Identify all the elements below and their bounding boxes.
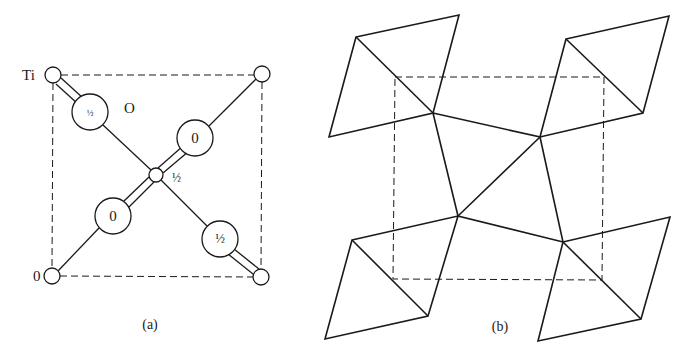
- rutile-structure-figure: ½ 0 0 ½ Ti O 0 ½ (a): [0, 0, 692, 360]
- ti-corner-top-right: [254, 66, 270, 82]
- origin-label: 0: [33, 268, 41, 284]
- ti-label: Ti: [22, 67, 35, 83]
- octahedron-top-right: [540, 16, 669, 137]
- octahedron-bottom-right: [538, 217, 670, 341]
- ti-corner-bottom-right: [253, 269, 269, 285]
- oxygen-upper-right-height: 0: [191, 130, 199, 146]
- unit-cell-outline-b: [393, 77, 604, 280]
- ti-center: [149, 168, 163, 182]
- panel-a: ½ 0 0 ½ Ti O 0 ½ (a): [22, 66, 270, 333]
- ti-corner-top-left: [45, 67, 61, 83]
- o-label: O: [124, 100, 135, 116]
- oxygen-lower-left-height: 0: [109, 208, 117, 224]
- center-height-label: ½: [172, 171, 181, 185]
- oxygen-upper-left-height: ½: [87, 108, 94, 118]
- octahedron-bottom-left: [325, 216, 458, 339]
- octahedron-center: [433, 113, 563, 242]
- panel-b: (b): [325, 15, 670, 341]
- ti-corner-bottom-left: [44, 268, 60, 284]
- oxygen-lower-right-height: ½: [215, 231, 225, 246]
- panel-b-caption: (b): [492, 319, 509, 335]
- octahedron-top-left: [329, 15, 459, 137]
- panel-a-caption: (a): [142, 317, 158, 333]
